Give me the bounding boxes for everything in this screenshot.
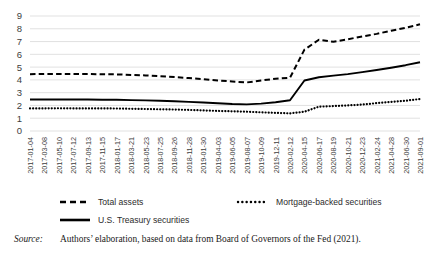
x-axis-tick-labels: 2017-01-042017-03-082017-05-102017-07-12…: [26, 137, 425, 174]
y-axis-tick-label: 0: [17, 125, 22, 136]
y-axis-tick-label: 6: [17, 49, 22, 60]
source-text: Authors’ elaboration, based on data from…: [60, 234, 361, 244]
x-axis-tick-label: 2021-02-24: [373, 137, 382, 174]
series-line-total-assets: [30, 24, 420, 82]
x-axis-tick-label: 2019-12-11: [272, 137, 281, 173]
x-axis-tick-label: 2019-04-03: [214, 137, 223, 174]
x-axis-tick-label: 2017-03-08: [40, 137, 49, 174]
legend-label-total-assets: Total assets: [98, 197, 143, 207]
series-group: [30, 24, 420, 113]
y-axis-tick-label: 1: [17, 113, 22, 124]
x-axis-tick-label: 2020-10-21: [344, 137, 353, 174]
x-axis-tick-label: 2020-06-17: [315, 137, 324, 174]
legend-label-u-s-treasury-securities: U.S. Treasury securities: [98, 215, 189, 225]
x-axis-tick-label: 2018-07-25: [156, 137, 165, 174]
x-axis-tick-label: 2017-11-15: [98, 137, 107, 173]
y-axis-tick-label: 9: [17, 10, 22, 21]
x-axis-tick-label: 2019-06-05: [228, 137, 237, 174]
fed-balance-sheet-chart: 01234567892017-01-042017-03-082017-05-10…: [0, 0, 428, 254]
x-axis-tick-label: 2020-08-19: [329, 137, 338, 174]
legend-label-mortgage-backed-securities: Mortgage-backed securities: [276, 197, 382, 207]
x-axis-tick-label: 2018-05-23: [142, 137, 151, 174]
x-axis-tick-label: 2017-05-10: [55, 137, 64, 174]
y-axis-tick-label: 7: [17, 36, 22, 47]
x-axis-tick-label: 2020-02-12: [286, 137, 295, 174]
x-axis-tick-label: 2017-09-13: [84, 137, 93, 174]
x-axis-tick-label: 2018-11-28: [185, 137, 194, 173]
x-axis-tick-label: 2020-04-15: [300, 137, 309, 174]
x-axis-tick-label: 2017-07-12: [69, 137, 78, 174]
x-axis-tick-label: 2020-12-23: [358, 137, 367, 174]
x-axis-tick-label: 2021-04-28: [387, 137, 396, 174]
x-axis-tick-label: 2021-06-30: [402, 137, 411, 174]
chart-legend: Total assetsMortgage-backed securitiesU.…: [60, 197, 382, 225]
x-axis-tick-label: 2019-10-09: [257, 137, 266, 174]
series-line-mortgage-backed-securities: [30, 99, 420, 113]
x-axis-tick-label: 2018-03-21: [127, 137, 136, 174]
x-axis-tick-label: 2021-09-01: [416, 137, 425, 174]
x-axis-tick-label: 2019-08-07: [243, 137, 252, 174]
source-label: Source:: [14, 234, 60, 244]
x-axis-tick-label: 2018-09-26: [170, 137, 179, 174]
x-axis-tick-label: 2017-01-04: [26, 137, 35, 174]
y-axis-tick-label: 5: [17, 62, 22, 73]
y-axis-tick-label: 4: [17, 74, 22, 85]
series-line-u-s-treasury-securities: [30, 62, 420, 104]
y-axis-tick-label: 2: [17, 100, 22, 111]
figure-source: Source:Authors’ elaboration, based on da…: [14, 234, 424, 244]
x-axis-tick-label: 2019-01-30: [199, 137, 208, 174]
figure-container: 01234567892017-01-042017-03-082017-05-10…: [0, 0, 428, 254]
x-axis-tick-label: 2018-01-17: [113, 137, 122, 174]
y-axis-tick-label: 3: [17, 87, 22, 98]
y-axis-tick-label: 8: [17, 23, 22, 34]
